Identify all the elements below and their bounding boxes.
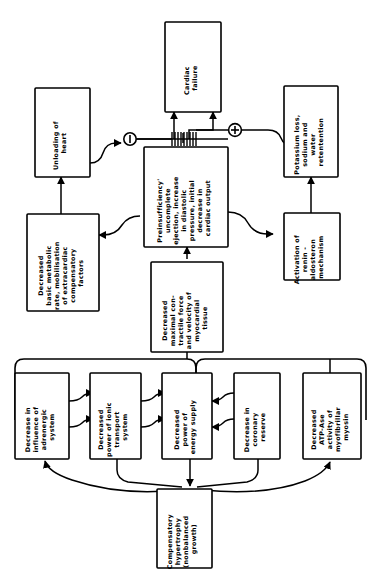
node-atpase-line-3: myofibrillar <box>334 407 342 453</box>
svg-text:Cardiac failure: Cardiac failure <box>183 39 199 95</box>
node-renin-line-2: aldosteron <box>309 239 317 280</box>
link-unloading-to-minus <box>90 143 121 163</box>
flowchart-svg: Cardiac failure Unloading of heart Potas… <box>0 0 383 573</box>
diagram-canvas: Cardiac failure Unloading of heart Potas… <box>0 0 383 573</box>
svg-text:Preinsufficiency' un: Preinsufficiency' uncomplete ejection, i… <box>156 149 212 245</box>
node-preinsufficiency-line-0: Preinsufficiency' <box>156 179 164 243</box>
node-decreased-energy-supply[interactable]: Decreased power of energy supply <box>162 373 212 459</box>
node-hypertrophy-line-2: (nonbalanced <box>182 515 190 567</box>
node-preinsufficiency-line-3: in diastolic <box>180 189 188 231</box>
node-energy-line-2: energy supply <box>189 399 197 454</box>
node-cardiac-failure[interactable]: Cardiac failure <box>165 22 221 112</box>
svg-text:Decreased power of: Decreased power of energy supply <box>173 378 197 455</box>
node-basic-metabolic-line-0: Decreased <box>37 255 45 295</box>
node-decrease-coronary-reserve[interactable]: Decrease in coronary reserve <box>234 373 280 459</box>
node-atpase-line-0: Decreased <box>310 409 318 449</box>
node-potassium-loss[interactable]: Potassium loss, sodium and water retente… <box>284 86 338 177</box>
node-adrenergic-line-2: adrenergic <box>40 409 48 450</box>
link-coronary-to-hypertrophy <box>197 459 258 487</box>
node-basic-metabolic-line-1: basic metabolic <box>45 246 53 306</box>
node-decreased-basic-metabolic-rate[interactable]: Decreased basic metabolic rate, mobilisa… <box>27 214 99 311</box>
node-ionic-line-2: transport <box>113 411 121 447</box>
node-ionic-line-1: power of ionic <box>105 402 113 457</box>
node-contractile-line-1: maximal con- <box>169 295 177 346</box>
node-basic-metabolic-line-5: factors <box>77 260 85 287</box>
node-hypertrophy-line-1: hypertrophy <box>174 517 182 565</box>
node-compensatory-hypertrophy[interactable]: Compensatory hypertrophy (nonbalanced gr… <box>157 487 212 569</box>
link-hypertrophy-to-atpase <box>203 462 330 492</box>
node-potassium-line-1: sodium and <box>301 122 309 167</box>
link-coronary-to-energy-a <box>212 393 234 401</box>
node-coronary-line-0: Decrease in <box>243 407 251 452</box>
node-ionic-line-0: Decreased <box>97 409 105 449</box>
node-hypertrophy-line-3: growth) <box>190 524 198 554</box>
node-coronary-line-1: coronary <box>251 412 259 446</box>
node-renin-line-0: Activation of <box>293 235 301 284</box>
node-preinsufficiency-line-5: decrease in <box>196 188 204 233</box>
node-contractile-line-3: and velocity of <box>185 292 193 349</box>
node-potassium-line-0: Potassium loss, <box>293 115 301 175</box>
node-cardiac-failure-line-1: failure <box>191 65 199 91</box>
link-ionic-to-hypertrophy <box>117 459 182 487</box>
node-adrenergic-line-0: Decrease in <box>24 407 32 452</box>
node-decreased-ionic-transport[interactable]: Decreased power of ionic transport syste… <box>90 373 141 459</box>
node-unloading-line-0: Unloading of <box>52 121 60 170</box>
node-atpase-line-4: myosin <box>342 413 350 440</box>
comb-hatch-symbol <box>172 132 196 146</box>
node-coronary-line-2: reserve <box>259 412 267 441</box>
link-preinsufficiency-to-renin <box>228 212 273 234</box>
link-hypertrophy-to-adrenergic <box>45 461 178 492</box>
node-unloading-line-1: heart <box>60 133 68 154</box>
node-preinsufficiency[interactable]: Preinsufficiency' uncomplete ejection, i… <box>144 147 228 247</box>
node-preinsufficiency-line-6: cardiac output <box>204 180 212 236</box>
svg-text:Decrease in coronary: Decrease in coronary reserve <box>243 380 267 452</box>
node-ionic-line-3: system <box>121 413 129 440</box>
node-energy-line-1: power of <box>181 413 189 447</box>
node-preinsufficiency-line-2: ejection, increase <box>172 176 180 245</box>
node-decrease-adrenergic-influence[interactable]: Decrease in influence of adrenergic syst… <box>15 373 69 459</box>
node-decreased-maximal-contractile-force[interactable]: Decreased maximal con- tractile force an… <box>151 262 223 352</box>
node-contractile-line-4: myocardial <box>193 299 201 341</box>
node-potassium-line-2: water <box>309 133 317 156</box>
node-basic-metabolic-line-2: rate, mobilisation <box>53 241 61 310</box>
node-adrenergic-line-3: system <box>48 413 56 440</box>
link-coronary-to-energy-b <box>212 419 234 427</box>
link-preinsufficiency-to-basic-metabolic <box>99 216 140 235</box>
node-potassium-line-3: retentention <box>317 118 325 167</box>
node-cardiac-failure-line-0: Cardiac <box>183 66 191 95</box>
node-contractile-line-2: tractile force <box>177 295 185 346</box>
node-renin-line-3: mechanism <box>317 236 325 279</box>
node-activation-renin-aldosteron[interactable]: Activation of renin - aldosteron mechani… <box>284 208 340 285</box>
node-renin-line-1: renin - <box>301 247 309 273</box>
node-adrenergic-line-1: influence of <box>32 407 40 453</box>
node-decreased-atpase-myosin[interactable]: Decreased ATP-Ase activity of myofibrill… <box>303 373 361 459</box>
node-basic-metabolic-line-4: compensatory <box>69 248 77 303</box>
node-energy-line-0: Decreased <box>173 409 181 449</box>
node-preinsufficiency-line-1: uncomplete <box>164 188 172 233</box>
node-hypertrophy-line-0: Compensatory <box>166 513 174 569</box>
node-atpase-line-2: activity of <box>326 410 334 449</box>
node-atpase-line-1: ATP-Ase <box>318 414 326 445</box>
svg-text:Activation of renin: Activation of renin - aldosteron mechani… <box>293 208 325 285</box>
node-unloading-of-heart[interactable]: Unloading of heart <box>35 88 90 177</box>
node-contractile-line-0: Decreased <box>161 300 169 340</box>
node-contractile-line-5: tissue <box>201 306 209 330</box>
node-preinsufficiency-line-4: pressure, initial <box>188 180 196 241</box>
node-basic-metabolic-line-3: of extracardiac <box>61 246 69 304</box>
